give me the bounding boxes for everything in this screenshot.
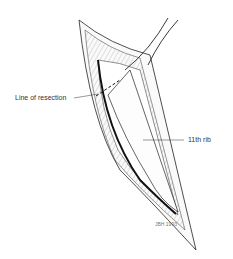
surgical-illustration (0, 0, 233, 259)
label-11th-rib: 11th rib (188, 136, 211, 143)
artist-signature: JBH 1993 (155, 221, 177, 227)
label-line-of-resection: Line of resection (15, 94, 66, 101)
